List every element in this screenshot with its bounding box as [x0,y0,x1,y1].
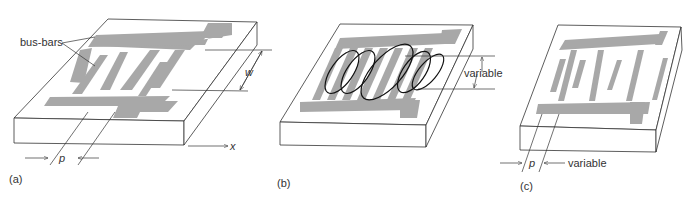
x-axis-label: x [229,140,236,152]
caption-b: (b) [277,177,290,189]
bus-bars-label: bus-bars [20,36,63,48]
caption-c: (c) [520,180,533,192]
panel-a: bus-bars w p x (a) [9,19,272,185]
period-label-c: p [528,157,535,169]
width-label: w [245,66,254,78]
overlap-variable-label: variable [464,67,503,79]
caption-a: (a) [9,173,22,185]
spacing-variable-label: variable [568,157,607,169]
panel-c: p variable (c) [500,25,682,192]
panel-b: variable (b) [277,24,503,189]
period-label: p [58,152,65,164]
idt-diagram: bus-bars w p x (a) [0,0,692,199]
